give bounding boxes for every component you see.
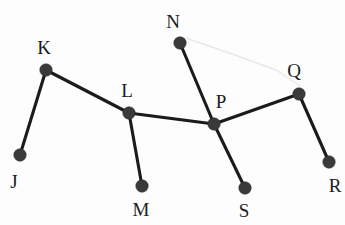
vertex-label-N: N <box>166 12 180 31</box>
graph-vertex-L <box>123 107 135 119</box>
graph-vertex-S <box>239 182 251 194</box>
vertex-label-S: S <box>239 201 250 220</box>
vertex-label-J: J <box>10 172 17 191</box>
vertex-label-M: M <box>133 200 150 219</box>
graph-edge-J-K <box>20 70 46 155</box>
vertex-label-R: R <box>329 176 342 195</box>
vertex-label-P: P <box>216 92 227 111</box>
graph-edge-P-S <box>214 124 245 188</box>
graph-vertex-P <box>208 118 220 130</box>
graph-vertex-N <box>174 37 186 49</box>
scan-artifact-line <box>186 38 300 86</box>
graph-diagram: JKLMNPQRS <box>0 0 345 225</box>
graph-edge-N-P <box>180 43 214 124</box>
graph-edge-P-Q <box>214 94 299 124</box>
graph-vertex-K <box>40 64 52 76</box>
graph-vertex-M <box>136 180 148 192</box>
edge-layer <box>20 43 329 188</box>
graph-edge-L-P <box>129 113 214 124</box>
graph-vertex-Q <box>293 88 305 100</box>
graph-vertex-J <box>14 149 26 161</box>
vertex-label-K: K <box>37 38 51 57</box>
graph-edge-K-L <box>46 70 129 113</box>
vertex-label-L: L <box>121 81 133 100</box>
graph-canvas <box>0 0 345 225</box>
graph-edge-Q-R <box>299 94 329 162</box>
graph-vertex-R <box>323 156 335 168</box>
graph-edge-L-M <box>129 113 142 186</box>
scan-artifact-layer <box>186 38 300 86</box>
vertex-label-Q: Q <box>287 61 301 80</box>
